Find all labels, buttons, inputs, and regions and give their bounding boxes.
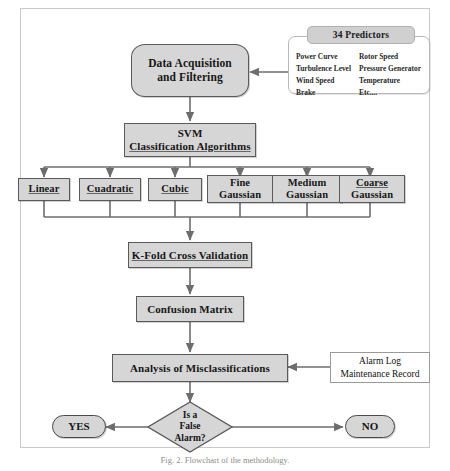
decision-line2: False: [179, 421, 200, 432]
predictors-legend-title: 34 Predictors: [307, 26, 415, 44]
kernel-label: Medium: [288, 177, 327, 189]
node-kernel-cubic: Cubic: [148, 178, 202, 201]
predictor-item: Rotor Speed: [359, 51, 422, 63]
kernel-label: Cubic: [161, 183, 188, 195]
predictor-item: Power Curve: [296, 51, 359, 63]
outcome-no-label: NO: [362, 420, 379, 433]
predictor-item: Brake: [296, 87, 359, 99]
decision-label: Is a False Alarm?: [148, 402, 232, 452]
kernel-label-2: Gaussian: [219, 189, 261, 201]
decision-line1: Is a: [183, 410, 198, 421]
note-alarm-log-maintenance-record: Alarm Log Maintenance Record: [330, 352, 430, 383]
node-outcome-yes: YES: [52, 415, 106, 438]
node-data-acquisition: Data Acquisition and Filtering: [131, 44, 249, 97]
note-line1: Alarm Log: [359, 355, 401, 367]
figure-caption: Fig. 2. Flowchart of the methodology.: [0, 455, 450, 471]
decision-line3: Alarm?: [174, 433, 205, 444]
node-svm-line1: SVM: [178, 127, 203, 140]
predictor-item: Temperature: [359, 75, 422, 87]
node-kernel-fine-gaussian: Fine Gaussian: [207, 175, 273, 203]
node-kfold-label: K-Fold Cross Validation: [132, 249, 248, 262]
kernel-label: Cuadratic: [87, 183, 133, 195]
kernel-label-2: Gaussian: [351, 189, 393, 201]
predictor-item: Pressure Generator: [359, 63, 422, 75]
kernel-label: Fine: [230, 177, 250, 189]
kernel-label-2: Gaussian: [286, 189, 328, 201]
kernel-label: Coarse: [356, 177, 388, 189]
node-kernel-linear: Linear: [18, 178, 70, 201]
node-kernel-medium-gaussian: Medium Gaussian: [272, 175, 342, 203]
node-data-acquisition-line2: and Filtering: [157, 71, 223, 85]
predictor-item: Wind Speed: [296, 75, 359, 87]
node-kfold-cross-validation: K-Fold Cross Validation: [128, 242, 252, 268]
predictors-column-right: Rotor Speed Pressure Generator Temperatu…: [359, 51, 422, 99]
outcome-yes-label: YES: [68, 420, 90, 433]
predictor-item: Etc....: [359, 87, 422, 99]
predictors-legend: 34 Predictors Power Curve Turbulence Lev…: [288, 36, 430, 94]
node-kernel-cuadratic: Cuadratic: [79, 178, 141, 201]
node-kernel-coarse-gaussian: Coarse Gaussian: [339, 175, 405, 203]
node-outcome-no: NO: [345, 415, 395, 438]
node-svm: SVM Classification Algorithms: [124, 123, 256, 157]
node-svm-line2: Classification Algorithms: [129, 140, 250, 153]
node-analysis-misclassifications: Analysis of Misclassifications: [112, 354, 288, 382]
node-analysis-label: Analysis of Misclassifications: [130, 362, 270, 375]
node-decision-false-alarm: Is a False Alarm?: [148, 402, 232, 452]
node-confusion-label: Confusion Matrix: [147, 303, 233, 316]
predictor-item: Turbulence Level: [296, 63, 359, 75]
note-line2: Maintenance Record: [341, 368, 420, 380]
kernel-label: Linear: [29, 183, 60, 195]
predictors-column-left: Power Curve Turbulence Level Wind Speed …: [296, 51, 359, 99]
node-confusion-matrix: Confusion Matrix: [136, 296, 244, 322]
predictors-legend-columns: Power Curve Turbulence Level Wind Speed …: [289, 51, 429, 99]
node-data-acquisition-line1: Data Acquisition: [148, 57, 232, 71]
